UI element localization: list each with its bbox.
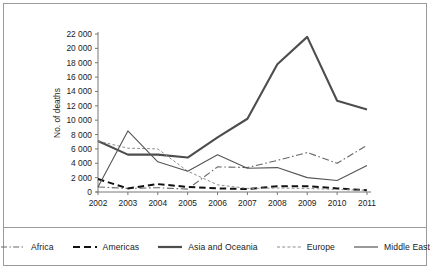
y-tick-label: 16 000: [66, 72, 92, 82]
x-tick-label: 2007: [238, 198, 257, 208]
y-axis-label: No. of deaths: [52, 88, 62, 138]
x-tick-label: 2010: [328, 198, 347, 208]
plot-panel: 02 0004 0006 0008 00010 00012 00014 0001…: [4, 4, 426, 228]
x-tick-label: 2009: [298, 198, 317, 208]
x-tick-label: 2011: [358, 198, 376, 208]
y-tick-label: 10 000: [66, 115, 92, 125]
series-line-americas: [98, 179, 367, 190]
line-chart: 02 0004 0006 0008 00010 00012 00014 0001…: [4, 4, 428, 228]
legend-label-americas: Americas: [103, 242, 140, 252]
y-tick-label: 8 000: [71, 130, 92, 140]
legend-label-europe: Europe: [307, 242, 335, 252]
legend-swatch-europe: [276, 242, 302, 252]
legend-label-africa: Africa: [31, 242, 54, 252]
figure-frame: 02 0004 0006 0008 00010 00012 00014 0001…: [3, 3, 427, 266]
legend-swatch-middle-east: [353, 242, 379, 252]
legend-swatch-africa: [0, 242, 26, 252]
legend-item-asia-and-oceania: Asia and Oceania: [157, 242, 257, 252]
legend-swatch-asia-and-oceania: [157, 242, 183, 252]
legend-item-middle-east: Middle East: [353, 242, 430, 252]
x-tick-label: 2005: [178, 198, 197, 208]
legend-item-americas: Americas: [72, 242, 140, 252]
y-tick-label: 0: [87, 187, 92, 197]
legend-item-europe: Europe: [276, 242, 335, 252]
y-tick-label: 20 000: [66, 43, 92, 53]
y-tick-label: 22 000: [66, 29, 92, 39]
legend-swatch-americas: [72, 242, 98, 252]
legend-label-middle-east: Middle East: [384, 242, 430, 252]
x-tick-label: 2003: [119, 198, 138, 208]
y-tick-label: 4 000: [71, 158, 92, 168]
x-tick-label: 2006: [208, 198, 227, 208]
y-tick-label: 18 000: [66, 58, 92, 68]
legend-label-asia-and-oceania: Asia and Oceania: [188, 242, 257, 252]
legend-item-africa: Africa: [0, 242, 54, 252]
x-tick-label: 2002: [89, 198, 108, 208]
series-line-africa: [98, 145, 367, 189]
chart-legend: Africa Americas Asia and Oceania Europe …: [4, 228, 426, 265]
series-line-asia-and-oceania: [98, 37, 367, 158]
x-tick-label: 2008: [268, 198, 287, 208]
x-tick-label: 2004: [148, 198, 167, 208]
series-line-europe: [98, 141, 367, 190]
y-tick-label: 2 000: [71, 173, 92, 183]
y-tick-label: 14 000: [66, 86, 92, 96]
y-tick-label: 12 000: [66, 101, 92, 111]
y-tick-label: 6 000: [71, 144, 92, 154]
